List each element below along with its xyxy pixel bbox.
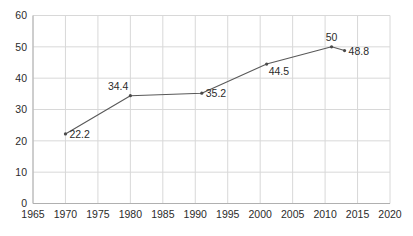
x-tick-label: 2010 xyxy=(313,208,337,220)
data-point-label: 44.5 xyxy=(269,65,290,77)
x-tick-label: 1980 xyxy=(119,208,143,220)
y-tick-label: 20 xyxy=(15,135,27,147)
x-tick-label: 1965 xyxy=(21,208,45,220)
chart-background xyxy=(0,0,413,236)
data-point-label: 35.2 xyxy=(206,87,227,99)
data-point-label: 34.4 xyxy=(108,80,129,92)
x-tick-label: 1985 xyxy=(151,208,175,220)
data-point-marker xyxy=(330,45,333,48)
data-point-marker xyxy=(64,132,67,135)
x-tick-label: 2015 xyxy=(346,208,370,220)
x-tick-label: 1970 xyxy=(54,208,78,220)
data-point-label: 48.8 xyxy=(349,45,370,57)
x-tick-label: 1990 xyxy=(184,208,208,220)
x-tick-label: 1975 xyxy=(86,208,110,220)
x-tick-label: 2005 xyxy=(281,208,305,220)
y-tick-label: 10 xyxy=(15,166,27,178)
y-tick-label: 60 xyxy=(15,9,27,21)
x-tick-label: 2020 xyxy=(378,208,402,220)
chart-canvas: 0102030405060 19651970197519801985199019… xyxy=(0,0,413,236)
y-tick-label: 30 xyxy=(15,103,27,115)
line-chart: 0102030405060 19651970197519801985199019… xyxy=(0,0,413,236)
x-tick-label: 2000 xyxy=(249,208,273,220)
data-point-label: 50 xyxy=(326,31,338,43)
data-point-marker xyxy=(200,92,203,95)
x-tick-label: 1995 xyxy=(216,208,240,220)
y-tick-label: 50 xyxy=(15,41,27,53)
y-tick-label: 40 xyxy=(15,72,27,84)
data-point-marker xyxy=(343,49,346,52)
data-point-label: 22.2 xyxy=(69,128,90,140)
data-point-marker xyxy=(129,94,132,97)
